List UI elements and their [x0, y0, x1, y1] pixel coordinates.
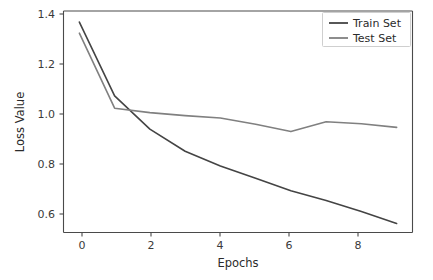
- x-tick-label: 8: [355, 239, 362, 252]
- line-chart: 0.6 0.8 1.0 1.2 1.4 Loss Value 0 2 4 6 8…: [0, 0, 433, 280]
- x-tick-label: 0: [79, 239, 86, 252]
- x-axis-title: Epochs: [217, 256, 258, 270]
- series-group: [79, 22, 396, 223]
- y-tick-label: 1.0: [38, 108, 56, 121]
- y-tick-label: 0.6: [38, 208, 56, 221]
- x-tick-label: 6: [286, 239, 293, 252]
- y-axis: 0.6 0.8 1.0 1.2 1.4 Loss Value: [13, 8, 64, 221]
- x-axis: 0 2 4 6 8 Epochs: [79, 233, 362, 271]
- legend[interactable]: Train Set Test Set: [323, 13, 411, 47]
- x-tick-label: 2: [148, 239, 155, 252]
- y-tick-label: 0.8: [38, 158, 56, 171]
- y-tickmarks: [60, 14, 64, 214]
- y-axis-title: Loss Value: [13, 92, 27, 152]
- legend-label-train-set: Train Set: [352, 17, 402, 30]
- series-line-test-set: [79, 33, 396, 131]
- y-tick-label: 1.4: [38, 8, 56, 21]
- figure-canvas: 0.6 0.8 1.0 1.2 1.4 Loss Value 0 2 4 6 8…: [0, 0, 433, 280]
- legend-label-test-set: Test Set: [352, 32, 397, 45]
- y-tick-label: 1.2: [38, 58, 56, 71]
- x-tick-label: 4: [217, 239, 224, 252]
- x-tickmarks: [82, 233, 358, 237]
